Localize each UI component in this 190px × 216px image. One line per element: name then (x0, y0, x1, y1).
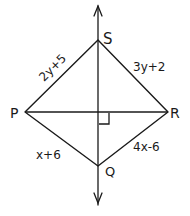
side-label-pq: x+6 (36, 148, 61, 162)
vertex-label-p: P (10, 105, 18, 121)
vertex-label-s: S (103, 30, 113, 48)
vertex-label-r: R (170, 105, 180, 121)
vertex-label-q: Q (105, 164, 115, 179)
side-label-qr: 4x-6 (133, 140, 160, 154)
right-angle-marker (99, 113, 109, 124)
vertical-axis (94, 6, 102, 205)
geometry-diagram: S R Q P 2y+5 3y+2 x+6 4x-6 (0, 0, 190, 216)
side-label-ps: 2y+5 (36, 51, 69, 84)
side-label-sr: 3y+2 (133, 60, 165, 74)
